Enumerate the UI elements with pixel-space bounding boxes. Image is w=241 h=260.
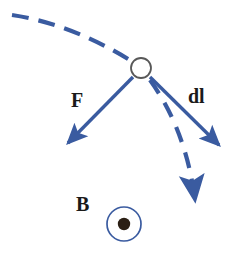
physics-diagram: F dl B: [0, 0, 241, 260]
dl-vector-arrow: [150, 77, 219, 145]
magnetic-field-label: B: [76, 194, 89, 214]
charge-circle-icon: [131, 58, 151, 78]
field-out-of-page-dot-icon: [118, 218, 130, 230]
diagram-canvas: [0, 0, 241, 260]
incoming-trajectory-dashed-arc: [12, 15, 133, 62]
current-element-label: dl: [188, 86, 205, 106]
force-label: F: [71, 90, 83, 110]
